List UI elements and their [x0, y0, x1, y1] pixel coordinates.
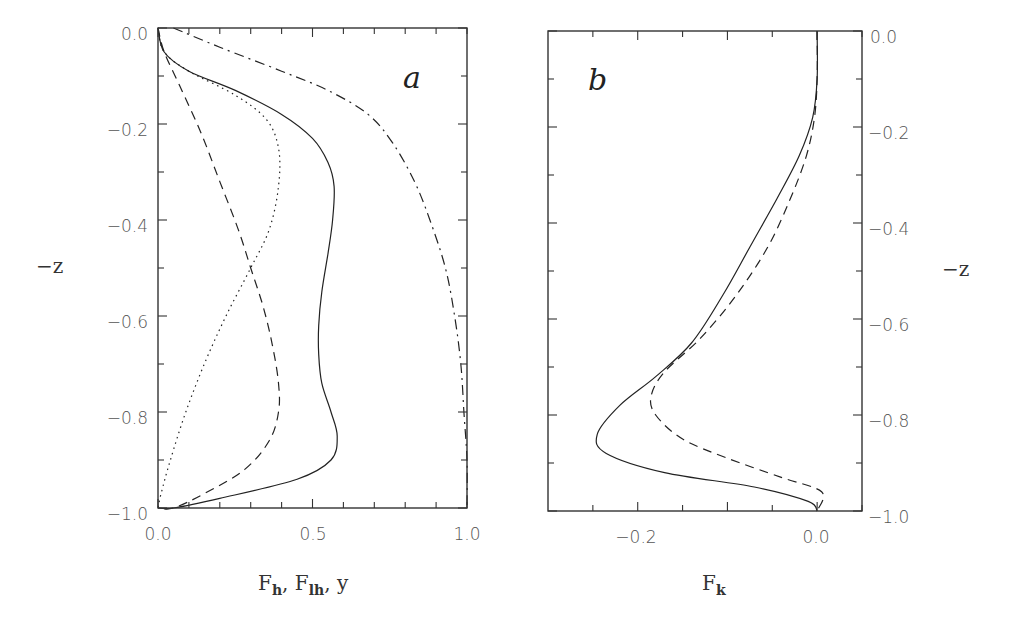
- panel-a-curves: [158, 28, 467, 509]
- panel-a: a 0.0 −0.2 −0.4 −0.6 −0.8 −1.0 0.0 0.5 1…: [36, 24, 481, 598]
- panel-a-ytick-4: −0.8: [107, 408, 148, 428]
- panel-a-xtick-2: 1.0: [453, 524, 480, 544]
- panel-a-xtick-0: 0.0: [144, 524, 171, 544]
- curve-solid: [596, 31, 817, 511]
- panel-a-ytick-2: −0.4: [107, 216, 148, 236]
- figure-canvas: a 0.0 −0.2 −0.4 −0.6 −0.8 −1.0 0.0 0.5 1…: [0, 0, 1010, 622]
- panel-b: b 0.0 −0.2 −0.4 −0.6 −0.8 −1.0 −0.2 0.0 …: [548, 27, 969, 598]
- panel-a-letter: a: [403, 60, 421, 95]
- panel-a-ytick-1: −0.2: [107, 120, 148, 140]
- panel-b-xtick-0: −0.2: [615, 527, 656, 547]
- curve-dash-dot: [173, 28, 467, 508]
- panel-a-ytick-3: −0.6: [107, 312, 148, 332]
- panel-b-curves: [596, 31, 823, 511]
- panel-b-ytick-1: −0.2: [868, 123, 909, 143]
- curve-dashed: [158, 28, 279, 509]
- panel-a-frame: [158, 28, 467, 508]
- panel-b-xtick-1: 0.0: [802, 527, 829, 547]
- panel-a-ticks: [158, 28, 467, 508]
- panel-b-ylabel: −z: [942, 257, 969, 281]
- panel-a-ytick-5: −1.0: [107, 504, 148, 524]
- panel-b-xlabel: Fk: [702, 571, 726, 598]
- panel-a-xtick-1: 0.5: [299, 524, 326, 544]
- panel-b-ytick-5: −1.0: [868, 507, 909, 527]
- curve-dotted: [158, 28, 280, 508]
- panel-a-xlabel: Fh, Flh, y: [258, 571, 349, 598]
- panel-b-ytick-3: −0.6: [868, 315, 909, 335]
- panel-a-ylabel: −z: [36, 254, 63, 278]
- panel-b-letter: b: [588, 62, 607, 97]
- panel-b-ytick-0: 0.0: [870, 27, 897, 47]
- curve-solid: [158, 28, 337, 509]
- panel-b-ytick-2: −0.4: [868, 219, 909, 239]
- panel-b-ytick-4: −0.8: [868, 411, 909, 431]
- panel-a-ytick-0: 0.0: [121, 24, 148, 44]
